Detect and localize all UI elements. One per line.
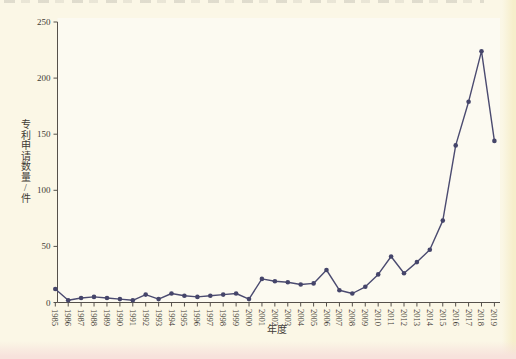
data-point [492,139,497,144]
x-tick-label: 1995 [179,309,189,326]
data-point [389,254,394,259]
data-point [53,287,58,292]
y-axis-title-char: 数 [21,160,31,172]
x-tick-label: 1991 [128,309,138,326]
y-axis-title-char: 专 [21,118,31,130]
x-tick-label: 2016 [451,309,461,326]
data-point [324,268,329,273]
data-point [376,272,381,277]
cropped-text-remnant [4,0,484,3]
x-tick-label: 2012 [399,309,409,326]
x-tick-label: 1988 [89,309,99,326]
y-tick-label: 150 [37,129,51,139]
y-axis-title-char: / [24,182,27,193]
data-point [402,271,407,276]
y-axis-title-char: 量 [21,172,31,183]
x-tick-label: 2011 [386,309,396,326]
data-point [350,291,355,296]
y-axis-title-char: 申 [21,139,31,151]
data-point [105,296,110,301]
x-tick-label: 1985 [50,309,60,326]
data-point [79,296,84,301]
data-point [195,295,200,300]
y-tick-label: 200 [37,73,51,83]
data-point [131,298,136,303]
data-point [337,288,342,293]
x-tick-label: 2004 [296,309,306,327]
x-tick-label: 1987 [76,309,86,326]
y-axis-title-char: 件 [21,193,31,204]
x-tick-label: 2010 [373,309,383,326]
x-tick-label: 2000 [244,309,254,326]
x-tick-label: 1996 [192,309,202,326]
patent-applications-line-chart: 0501001502002501985198619871988198919901… [0,0,516,359]
data-point [169,291,174,296]
x-tick-label: 2014 [425,309,435,327]
data-point [466,99,471,104]
x-tick-label: 2009 [360,309,370,326]
x-tick-label: 1997 [205,309,215,326]
data-point [208,294,213,299]
x-tick-label: 2019 [489,309,499,326]
x-tick-label: 1999 [231,309,241,326]
data-point [298,282,303,287]
x-tick-label: 1992 [141,309,151,326]
x-tick-label: 2015 [438,309,448,326]
data-point [311,281,316,286]
x-axis-title: 年度 [267,323,287,335]
x-tick-label: 2007 [334,309,344,326]
data-point [92,295,97,300]
x-tick-label: 1989 [102,309,112,326]
data-point [234,291,239,296]
x-tick-label: 2017 [464,309,474,326]
y-axis-title-char: 利 [21,130,31,141]
x-tick-label: 2006 [322,309,332,326]
data-point [286,280,291,285]
data-point [453,143,458,148]
y-axis-title-char: 请 [21,150,31,162]
page: { "page": { "background": "#fbf7e6", "ri… [0,0,516,359]
x-tick-label: 1994 [167,309,177,327]
data-point [428,248,433,253]
x-tick-label: 2013 [412,309,422,326]
x-tick-label: 2001 [257,309,267,326]
data-point [118,297,123,302]
data-point [221,292,226,297]
x-tick-label: 1986 [63,309,73,326]
x-tick-label: 1993 [154,309,164,326]
data-point [182,294,187,299]
data-point [66,298,71,303]
data-point [156,297,161,302]
data-point [273,279,278,284]
x-tick-label: 1998 [218,309,228,326]
plot-area [58,18,501,303]
x-tick-label: 1990 [115,309,125,326]
x-tick-label: 2008 [347,309,357,326]
y-tick-label: 0 [46,298,51,308]
data-point [260,277,265,282]
data-point [479,49,484,54]
data-point [363,285,368,290]
data-point [441,218,446,223]
data-point [143,292,148,297]
y-tick-label: 250 [37,17,51,27]
y-tick-label: 100 [37,185,51,195]
x-tick-label: 2005 [309,309,319,326]
x-tick-label: 2018 [476,309,486,326]
data-point [247,297,252,302]
data-point [415,260,420,265]
y-tick-label: 50 [42,241,52,251]
